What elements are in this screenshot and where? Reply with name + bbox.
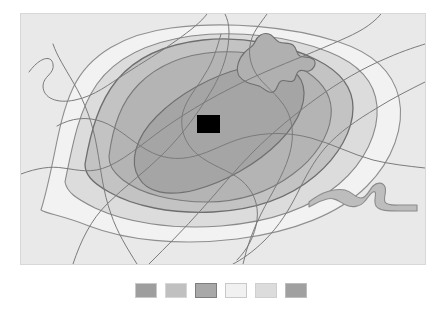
map-canvas [21, 14, 425, 264]
map-frame [20, 13, 426, 265]
zone-legend [0, 278, 442, 302]
legend-swatch-5[interactable] [255, 283, 277, 298]
legend-swatch-3[interactable] [195, 283, 217, 298]
legend-swatch-6[interactable] [285, 283, 307, 298]
contour-map-figure [0, 0, 442, 322]
legend-swatch-2[interactable] [165, 283, 187, 298]
site-marker [197, 115, 220, 133]
legend-swatch-1[interactable] [135, 283, 157, 298]
legend-swatch-4[interactable] [225, 283, 247, 298]
